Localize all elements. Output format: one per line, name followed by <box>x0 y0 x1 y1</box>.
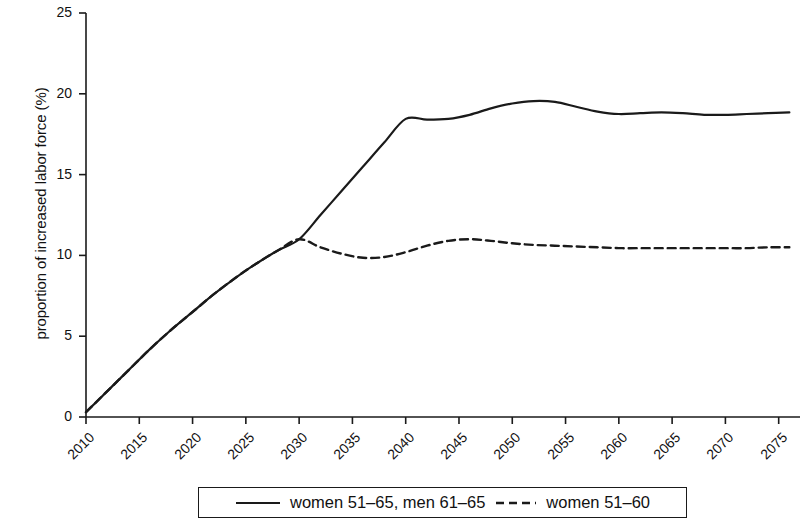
legend-entry-dashed: women 51–60 <box>495 493 650 512</box>
y-tick-label: 10 <box>38 246 72 262</box>
y-tick-label: 25 <box>38 4 72 20</box>
series-line-2 <box>86 239 789 412</box>
legend-entry-solid: women 51–65, men 61–65 <box>235 493 485 512</box>
y-tick-label: 20 <box>38 85 72 101</box>
data-series-layer <box>86 101 789 412</box>
y-axis-title: proportion of increased labor force (%) <box>32 24 49 404</box>
legend-dashed-line-swatch <box>495 497 537 509</box>
legend-solid-line-swatch <box>235 497 281 509</box>
legend-label-solid: women 51–65, men 61–65 <box>290 493 485 512</box>
series-line-1 <box>86 101 789 412</box>
chart-figure: proportion of increased labor force (%) … <box>0 0 809 522</box>
chart-legend: women 51–65, men 61–65 women 51–60 <box>198 487 687 518</box>
y-axis-ticks <box>79 13 86 417</box>
y-tick-label: 5 <box>38 327 72 343</box>
y-tick-label: 15 <box>38 166 72 182</box>
axis-lines <box>86 13 800 417</box>
x-axis-ticks <box>86 417 779 424</box>
y-tick-label: 0 <box>38 408 72 424</box>
legend-label-dashed: women 51–60 <box>546 493 650 512</box>
